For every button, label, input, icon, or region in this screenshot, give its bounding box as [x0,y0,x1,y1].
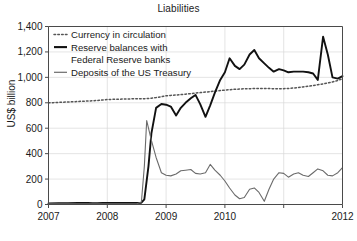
x-tick-label: 2008 [96,211,119,222]
chart-legend: Currency in circulationReserve balances … [54,29,191,78]
y-tick-label: 1,200 [17,46,42,57]
y-tick-label: 800 [26,97,43,108]
y-tick-label: 1,400 [17,21,42,32]
y-tick-label: 1,000 [17,72,42,83]
series-line [49,79,343,103]
legend-label: Reserve balances with [71,42,168,53]
y-tick-label: 200 [26,174,43,185]
x-tick-label: 2012 [331,211,354,222]
y-axis-ticks-group: 02004006008001,0001,2001,400 [17,21,48,210]
y-tick-label: 600 [26,123,43,134]
y-tick-label: 400 [26,148,43,159]
x-tick-label: 2009 [155,211,178,222]
legend-label: Deposits of the US Treasury [71,67,191,78]
chart-figure: Liabilities US$ billion 02004006008001,0… [0,0,357,241]
x-tick-label: 2010 [214,211,237,222]
y-tick-label: 0 [37,199,43,210]
series-line [49,121,343,204]
plot-area: 02004006008001,0001,2001,400 20072008200… [0,0,357,241]
x-axis-ticks-group: 20072008200920102012 [37,205,354,222]
legend-label: Federal Reserve banks [71,54,170,65]
x-tick-label: 2007 [37,211,60,222]
legend-label: Currency in circulation [71,29,166,40]
